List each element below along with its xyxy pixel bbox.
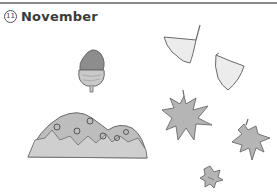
hill-icon — [28, 113, 147, 158]
maple-leaf-icon — [162, 90, 212, 140]
illustration-canvas — [0, 0, 277, 194]
ginkgo-leaf-icon — [164, 25, 200, 63]
maple-leaf-icon — [200, 166, 223, 188]
maple-leaf-icon — [232, 119, 270, 160]
acorn-icon — [79, 50, 105, 92]
ginkgo-leaf-icon — [215, 53, 244, 90]
